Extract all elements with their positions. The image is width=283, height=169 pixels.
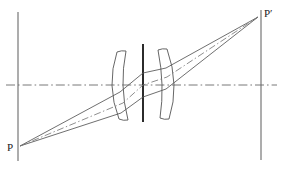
right-lens-front-surface	[158, 50, 162, 118]
object-point-label: P	[7, 141, 13, 153]
optical-ray-diagram: P P′	[0, 0, 283, 169]
upper-marginal-ray	[20, 17, 258, 146]
left-lens-top-edge	[117, 51, 126, 52]
image-point-label: P′	[264, 7, 273, 19]
optical-diagram-root: P P′	[0, 0, 283, 169]
left-lens-front-surface	[112, 52, 119, 119]
right-lens	[158, 49, 174, 120]
right-lens-bottom-edge	[160, 118, 169, 119]
left-lens-bottom-edge	[119, 119, 128, 120]
right-lens-top-edge	[158, 49, 167, 50]
